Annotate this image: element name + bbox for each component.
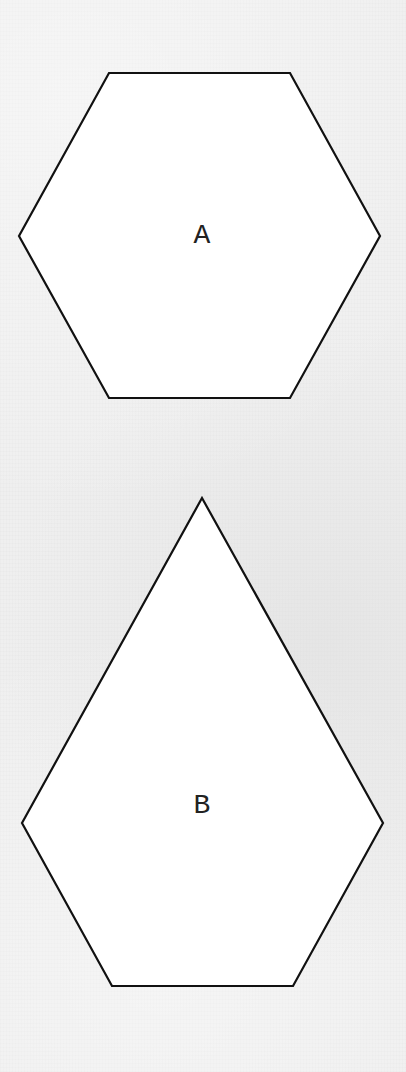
pentagon-b: [22, 498, 383, 986]
shape-b-group: B: [22, 498, 383, 986]
diagram-canvas: A B: [0, 0, 406, 1072]
shape-a-group: A: [19, 73, 380, 398]
shape-b-label: B: [194, 790, 211, 821]
shape-a-label: A: [194, 220, 211, 251]
